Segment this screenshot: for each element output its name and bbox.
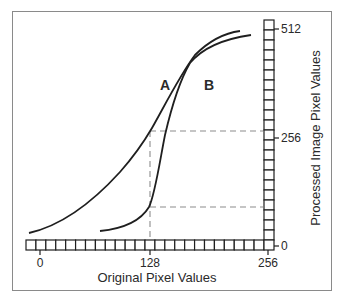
x-tick-0: 0 [37, 256, 44, 270]
x-tick-128: 128 [140, 256, 160, 270]
curve-b-label: B [204, 77, 214, 93]
y-tick-256: 256 [281, 131, 301, 145]
y-axis-title: Processed Image Pixel Values [308, 50, 323, 226]
x-axis-ticks [40, 250, 268, 255]
x-axis-title: Original Pixel Values [98, 270, 217, 285]
y-axis-bar [264, 20, 274, 250]
curve-b [100, 35, 251, 231]
curve-a [29, 31, 240, 233]
y-tick-0: 0 [281, 239, 288, 253]
chart: A B 0 128 256 512 256 0 Original Pixel V… [0, 0, 341, 301]
dashed-guides [150, 131, 263, 240]
y-tick-512: 512 [281, 22, 301, 36]
y-axis-ticks [274, 29, 279, 246]
x-axis-bar [26, 240, 264, 250]
x-tick-256: 256 [258, 256, 278, 270]
curve-a-label: A [160, 77, 170, 93]
